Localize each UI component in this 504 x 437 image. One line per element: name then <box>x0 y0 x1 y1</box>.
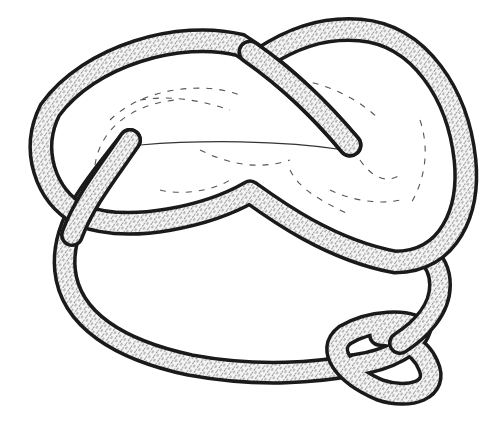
knot-illustration <box>0 0 504 437</box>
small-loop <box>337 255 440 394</box>
